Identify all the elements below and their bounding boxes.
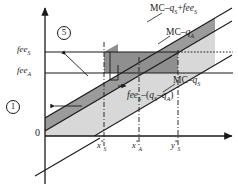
q-sub-mid: A	[190, 32, 194, 39]
curve-label-mc-qa: MC–qA	[166, 28, 194, 39]
fee-expr-close: )	[170, 90, 173, 100]
fee-s-base: fee	[17, 44, 28, 54]
x-star-s-sup: *	[101, 139, 104, 145]
fee-a-sub: A	[28, 71, 32, 77]
callout-number-5: 5	[57, 26, 71, 40]
x-tick-label-x-star-a: x*A	[132, 140, 142, 152]
y-tick-label-fee-s: feeS	[17, 45, 30, 57]
x-star-a-sub: A	[139, 146, 142, 152]
fee-sub-top: S	[194, 8, 197, 15]
fee-expr-base: fee	[127, 90, 138, 100]
origin-label: 0	[35, 128, 40, 138]
x-tick-label-x-star-s: x*S	[97, 140, 106, 152]
annotation-fee-difference: feeS–(qS–qA)	[127, 91, 174, 102]
figure-container: MC–qS+feeS MC–qA MC–qS feeS–(qS–qA) feeS…	[0, 0, 238, 188]
y-tick-label-fee-a: feeA	[17, 66, 31, 78]
x-tick-label-y-star-s: y*S	[171, 140, 180, 152]
fee-a-base: fee	[17, 65, 28, 75]
y-star-s-sub: S	[178, 146, 181, 152]
mc-text-bot: MC	[173, 75, 188, 85]
q-sub-bot: S	[197, 80, 200, 87]
fee-s-sub: S	[28, 50, 31, 56]
curve-label-mc-qs-plus-fee: MC–qS+feeS	[150, 4, 197, 15]
x-star-a-sup: *	[136, 139, 139, 145]
x-star-s-sub: S	[104, 146, 107, 152]
y-star-s-sup: *	[175, 139, 178, 145]
callout-number-1: 1	[6, 100, 20, 114]
mc-text-mid: MC	[166, 27, 181, 37]
curve-label-mc-qs: MC–qS	[173, 76, 200, 87]
fee-top: fee	[183, 3, 194, 13]
mc-text-top: MC	[150, 3, 165, 13]
mc-qa-line	[45, 21, 232, 131]
diagram-canvas	[0, 0, 238, 188]
